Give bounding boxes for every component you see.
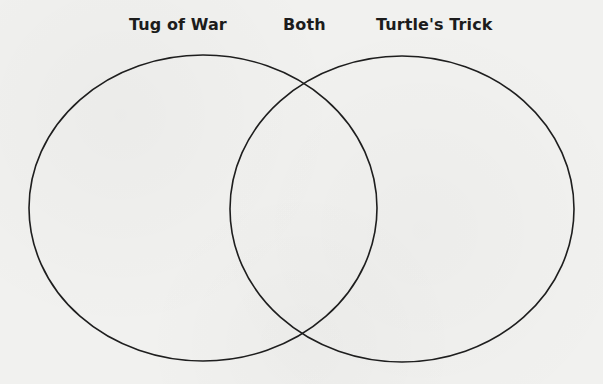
- circle-tug-of-war: [29, 55, 377, 361]
- circle-turtles-trick: [230, 56, 574, 362]
- venn-diagram: [0, 0, 603, 384]
